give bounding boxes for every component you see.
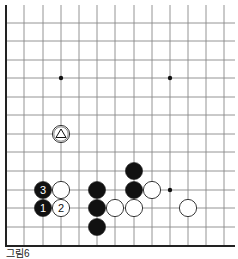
white-stone: 2	[52, 199, 69, 216]
black-stone: 3	[34, 181, 51, 198]
black-stone	[88, 218, 105, 235]
white-stone	[106, 199, 123, 216]
stones: 312	[34, 125, 196, 235]
star-point-icon	[59, 76, 63, 80]
black-stone: 1	[34, 199, 51, 216]
white-stone	[143, 181, 160, 198]
white-stone	[125, 199, 142, 216]
move-number: 2	[58, 202, 64, 214]
black-stone	[88, 199, 105, 216]
move-number: 1	[40, 202, 46, 214]
move-number: 3	[40, 184, 46, 196]
star-point-icon	[168, 76, 172, 80]
white-stone	[52, 125, 69, 142]
diagram-caption: 그림6	[6, 249, 30, 259]
black-stone	[125, 162, 142, 179]
white-stone	[179, 199, 196, 216]
white-stone	[52, 181, 69, 198]
star-point-icon	[168, 188, 172, 192]
black-stone	[125, 181, 142, 198]
black-stone	[88, 181, 105, 198]
